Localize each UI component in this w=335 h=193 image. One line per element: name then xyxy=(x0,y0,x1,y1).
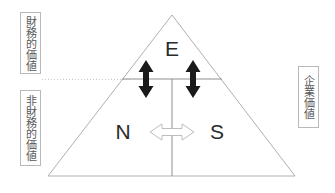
pyramid-segment-label-s: S xyxy=(204,121,230,142)
diagram-vector-layer xyxy=(0,0,335,193)
pyramid-segment-label-n: N xyxy=(110,121,136,142)
pyramid-segment-label-e: E xyxy=(159,38,185,59)
label-financial-value: 財務的価値 xyxy=(20,12,41,74)
label-corporate-value: 企業価値 xyxy=(298,66,319,128)
label-nonfinancial-value: 非財務的価値 xyxy=(20,90,41,166)
diagram-canvas: E N S 財務的価値 非財務的価値 企業価値 xyxy=(0,0,335,193)
